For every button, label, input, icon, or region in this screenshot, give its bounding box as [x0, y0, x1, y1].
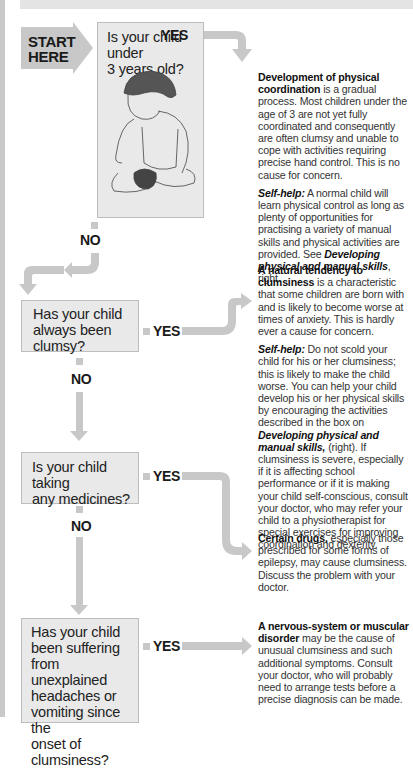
question-box-medicines: Is your child taking any medicines? — [21, 452, 139, 504]
question-text: Has your child been suffering from unexp… — [31, 624, 138, 768]
self-help-body: Do not scold your child for his or her c… — [258, 343, 404, 428]
question-line: any medicines? — [32, 491, 138, 507]
answer-nervous-muscular-disorder: A nervous-system or muscular disorder ma… — [258, 620, 410, 711]
self-help-label: Self-help: — [258, 187, 305, 199]
question-box-under-3: Is your child under 3 years old? — [97, 22, 204, 218]
question-line: clumsiness? — [31, 752, 138, 768]
question-line: headaches or — [31, 688, 138, 704]
question-line: Has your child — [31, 624, 138, 640]
start-here-label: START HERE — [28, 34, 75, 64]
answer-heading: Certain drugs, — [258, 532, 328, 544]
question-box-headaches-vomiting: Has your child been suffering from unexp… — [21, 618, 139, 723]
self-help-label: Self-help: — [258, 343, 305, 355]
start-label-line2: HERE — [28, 49, 75, 64]
answer-body: is a gradual process. Most children unde… — [258, 83, 407, 180]
question-line: onset of — [31, 736, 138, 752]
no-label-q2: NO — [71, 371, 91, 387]
answer-certain-drugs: Certain drugs, especially those prescrib… — [258, 532, 410, 599]
start-here-marker: START HERE — [21, 22, 93, 74]
question-line: been suffering — [31, 640, 138, 656]
no-label-q1: NO — [80, 232, 100, 248]
question-text: Is your child taking any medicines? — [32, 459, 138, 507]
no-label-q3: NO — [71, 518, 91, 534]
yes-label-q3: YES — [153, 468, 180, 484]
yes-label-q2: YES — [153, 323, 180, 339]
question-line: Has your child — [33, 306, 122, 322]
yes-label-q4: YES — [153, 638, 180, 654]
question-line: always been — [33, 322, 122, 338]
question-line: Is your child taking — [32, 459, 138, 491]
yes-label-q1: YES — [161, 27, 188, 43]
question-line: vomiting since the — [31, 704, 138, 736]
question-text: Has your child always been clumsy? — [33, 306, 122, 354]
start-label-line1: START — [28, 34, 75, 49]
answer-natural-clumsiness: A natural tendency to clumsiness is a ch… — [258, 264, 410, 557]
question-box-always-clumsy: Has your child always been clumsy? — [21, 300, 139, 352]
question-line: from unexplained — [31, 656, 138, 688]
child-illustration-icon — [98, 23, 205, 219]
answer-physical-coordination: Development of physical coordination is … — [258, 71, 410, 290]
question-line: clumsy? — [33, 338, 122, 354]
